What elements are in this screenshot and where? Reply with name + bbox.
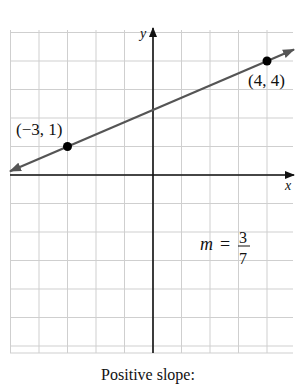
slope-annotation: m = 3 7 — [200, 229, 250, 267]
slope-line — [10, 49, 294, 171]
slope-m: m — [200, 234, 213, 254]
slope-equals: = — [220, 234, 230, 254]
point-label-1: (−3, 1) — [16, 120, 62, 139]
series-line — [10, 49, 294, 171]
data-point-1 — [63, 142, 72, 151]
x-axis-label: x — [284, 178, 292, 193]
slope-denominator: 7 — [239, 250, 247, 267]
slope-numerator: 3 — [239, 229, 247, 246]
data-point-2 — [263, 57, 272, 66]
figure-caption: Positive slope: — [0, 366, 296, 384]
point-label-2: (4, 4) — [248, 71, 285, 90]
y-axis-label: y — [138, 26, 147, 41]
